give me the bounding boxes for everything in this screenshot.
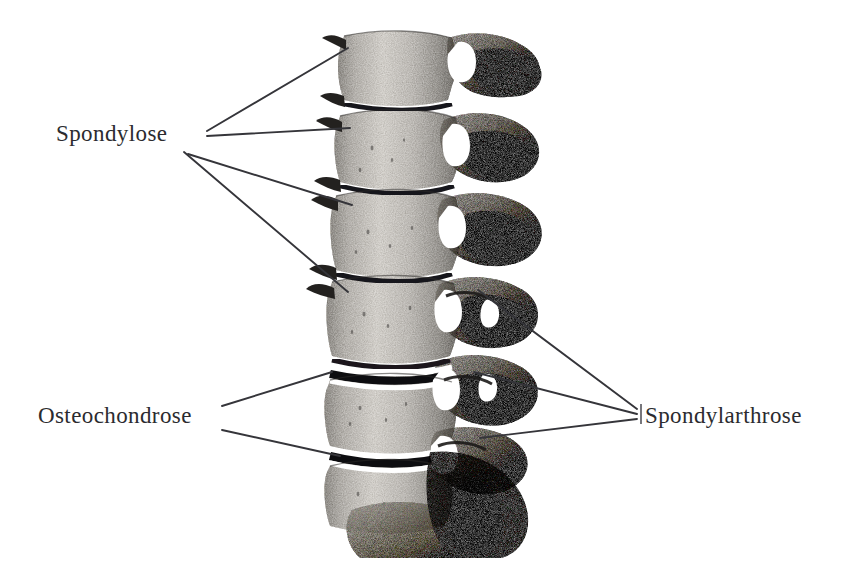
label-spondylarthrose: Spondylarthrose: [645, 404, 802, 427]
label-osteochondrose: Osteochondrose: [38, 404, 192, 427]
label-spondylose: Spondylose: [56, 122, 167, 145]
spine-illustration: [0, 0, 844, 577]
